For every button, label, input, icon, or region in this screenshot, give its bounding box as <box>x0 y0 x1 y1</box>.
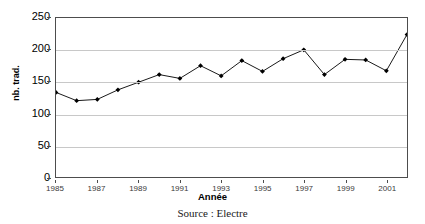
y-tick-label: 100 <box>4 108 50 119</box>
x-tick-mark <box>221 180 222 183</box>
y-tick-label: 200 <box>4 43 50 54</box>
gridline <box>56 50 407 51</box>
data-point-marker <box>116 87 121 92</box>
x-tick-mark <box>387 180 388 183</box>
x-tick-mark <box>180 180 181 183</box>
chart-figure: nb. trad. 050100150200250 19851987198919… <box>0 0 425 224</box>
y-tick-mark <box>47 146 51 147</box>
y-tick-mark <box>47 81 51 82</box>
data-point-marker <box>74 98 79 103</box>
y-tick-mark <box>47 17 51 18</box>
x-tick-mark <box>304 180 305 183</box>
gridline <box>56 147 407 148</box>
y-tick-label: 250 <box>4 11 50 22</box>
data-point-marker <box>95 97 100 102</box>
x-tick-mark <box>263 180 264 183</box>
x-tick-mark <box>346 180 347 183</box>
y-tick-label: 150 <box>4 75 50 86</box>
data-point-marker <box>260 69 265 74</box>
data-point-marker <box>363 58 368 63</box>
y-tick-mark <box>47 178 51 179</box>
plot-area <box>55 17 408 178</box>
gridline <box>56 82 407 83</box>
x-tick-mark <box>138 180 139 183</box>
data-point-marker <box>157 72 162 77</box>
gridline <box>56 115 407 116</box>
x-tick-mark <box>97 180 98 183</box>
y-tick-label: 50 <box>4 140 50 151</box>
series-line <box>56 35 407 101</box>
line-series <box>56 18 407 177</box>
data-point-marker <box>198 63 203 68</box>
data-point-marker <box>177 76 182 81</box>
data-point-marker <box>384 68 389 73</box>
x-axis-title: Année <box>0 191 425 202</box>
y-tick-mark <box>47 49 51 50</box>
data-point-marker <box>56 90 58 95</box>
source-caption: Source : Electre <box>0 207 425 219</box>
x-tick-mark <box>55 180 56 183</box>
y-tick-mark <box>47 114 51 115</box>
data-point-marker <box>281 56 286 61</box>
